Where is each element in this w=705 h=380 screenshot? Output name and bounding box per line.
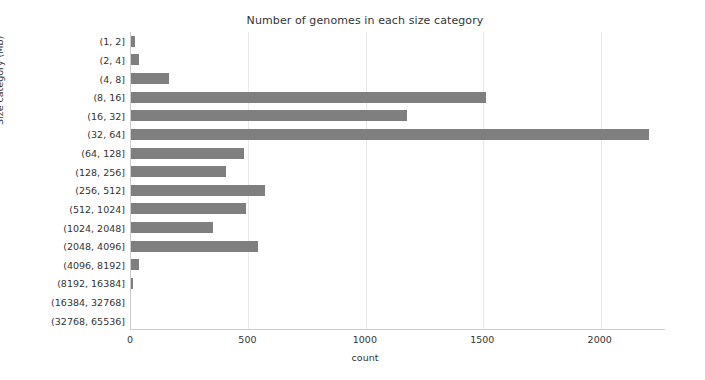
- bar-row: [131, 129, 666, 140]
- x-axis-label: count: [130, 352, 600, 363]
- y-tick-label: (1024, 2048]: [0, 222, 130, 233]
- bar-row: [131, 92, 666, 103]
- y-tick-label: (32768, 65536]: [0, 315, 130, 326]
- y-tick-label: (16384, 32768]: [0, 297, 130, 308]
- bar[interactable]: [131, 73, 169, 84]
- bar[interactable]: [131, 166, 226, 177]
- bar[interactable]: [131, 92, 486, 103]
- bar[interactable]: [131, 241, 258, 252]
- bar[interactable]: [131, 222, 213, 233]
- y-tick-label: (4096, 8192]: [0, 259, 130, 270]
- bar[interactable]: [131, 110, 407, 121]
- bar-row: [131, 315, 666, 326]
- bar[interactable]: [131, 148, 244, 159]
- y-tick-label: (16, 32]: [0, 110, 130, 121]
- y-tick-label: (2048, 4096]: [0, 241, 130, 252]
- bar-row: [131, 148, 666, 159]
- y-tick-label: (64, 128]: [0, 148, 130, 159]
- chart-title: Number of genomes in each size category: [130, 14, 600, 27]
- bar[interactable]: [131, 54, 139, 65]
- bar[interactable]: [131, 203, 246, 214]
- y-tick-label: (512, 1024]: [0, 203, 130, 214]
- y-tick-label: (4, 8]: [0, 73, 130, 84]
- y-tick-label: (8192, 16384]: [0, 278, 130, 289]
- x-tick-label: 2000: [588, 334, 612, 345]
- bar-row: [131, 203, 666, 214]
- x-tick-label: 500: [238, 334, 256, 345]
- bar[interactable]: [131, 129, 649, 140]
- bar-row: [131, 297, 666, 308]
- chart-figure: Number of genomes in each size category …: [0, 0, 705, 380]
- bar-row: [131, 36, 666, 47]
- y-tick-label: (2, 4]: [0, 54, 130, 65]
- x-tick-label: 1500: [470, 334, 494, 345]
- bar[interactable]: [131, 36, 135, 47]
- x-tick-label: 0: [127, 334, 133, 345]
- bar-row: [131, 185, 666, 196]
- bar-series: [131, 32, 665, 329]
- y-tick-label: (128, 256]: [0, 166, 130, 177]
- y-tick-label: (256, 512]: [0, 185, 130, 196]
- bar[interactable]: [131, 185, 265, 196]
- bar-row: [131, 241, 666, 252]
- plot-area: [130, 32, 665, 330]
- x-tick-label: 1000: [353, 334, 377, 345]
- bar[interactable]: [131, 259, 139, 270]
- bar-row: [131, 222, 666, 233]
- y-tick-label: (1, 2]: [0, 36, 130, 47]
- bar-row: [131, 278, 666, 289]
- bar-row: [131, 259, 666, 270]
- bar-row: [131, 110, 666, 121]
- bar-row: [131, 73, 666, 84]
- bar[interactable]: [131, 278, 133, 289]
- y-tick-label: (8, 16]: [0, 92, 130, 103]
- bar-row: [131, 166, 666, 177]
- bar-row: [131, 54, 666, 65]
- y-tick-label: (32, 64]: [0, 129, 130, 140]
